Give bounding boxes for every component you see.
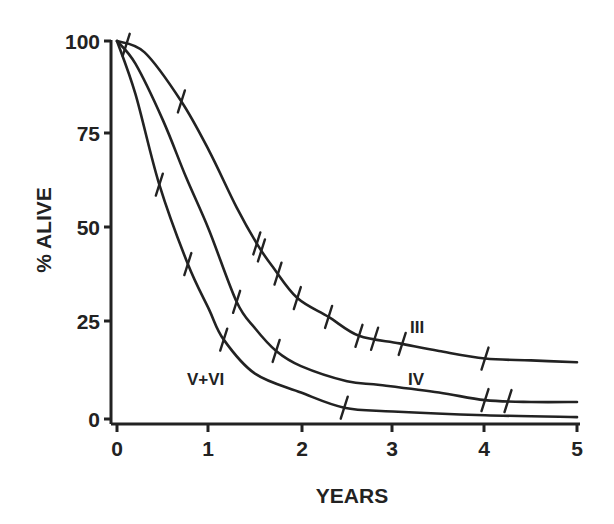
x-tick-3: 3	[386, 437, 398, 460]
y-tick-75: 75	[77, 122, 101, 145]
x-tick-1: 1	[202, 437, 214, 460]
y-tick-100: 100	[65, 30, 100, 53]
censor-mark	[294, 287, 301, 309]
y-tick-0: 0	[88, 408, 100, 431]
x-tick-0: 0	[111, 437, 123, 460]
y-tick-25: 25	[77, 310, 101, 333]
curve-iv	[117, 41, 577, 402]
x-tick-5: 5	[571, 437, 583, 460]
censor-mark	[275, 263, 282, 285]
y-tick-50: 50	[77, 216, 100, 239]
x-tick-4: 4	[478, 437, 490, 460]
survival-chart: 0 25 50 75 100 0 1 2 3 4 5 YEARS % ALIVE…	[0, 0, 614, 524]
x-tick-2: 2	[296, 437, 308, 460]
y-axis-title: % ALIVE	[32, 187, 55, 273]
curve-iii	[117, 41, 577, 362]
survival-curves	[117, 41, 577, 417]
censor-mark	[258, 239, 265, 261]
censor-marks	[123, 34, 512, 419]
series-label-v-vi: V+VI	[187, 370, 224, 389]
censor-mark	[273, 340, 280, 362]
censor-mark	[220, 329, 227, 351]
x-axis-title: YEARS	[316, 484, 388, 507]
censor-mark	[253, 232, 260, 254]
series-label-iv: IV	[408, 370, 425, 389]
series-label-iii: III	[410, 318, 424, 337]
censor-mark	[178, 90, 185, 112]
